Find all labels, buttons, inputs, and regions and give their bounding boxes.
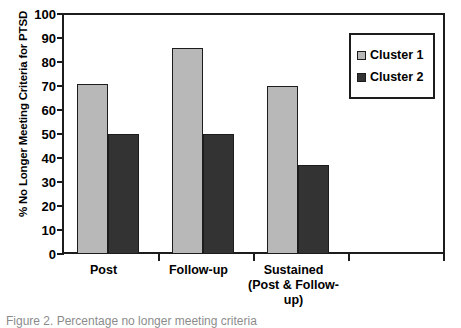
x-tick-mark (443, 254, 445, 261)
y-tick-label: 40 (18, 152, 56, 165)
x-axis-label-3: Sustained(Post & Follow-up) (246, 263, 341, 307)
y-tick-label: 10 (18, 224, 56, 237)
y-tick-label: 100 (18, 8, 56, 21)
legend-swatch-icon-cluster-2 (357, 73, 366, 82)
legend-label-cluster-1: Cluster 1 (370, 48, 424, 62)
y-tick-label: 0 (18, 248, 56, 261)
x-axis-label-line: Follow-up (151, 263, 246, 278)
bar-cluster-2 (108, 134, 139, 254)
y-tick-label: 60 (18, 104, 56, 117)
legend-label-cluster-2: Cluster 2 (370, 70, 424, 84)
x-axis-label-line: Sustained (246, 263, 341, 278)
x-axis-label-1: Post (56, 263, 151, 278)
bar-cluster-1 (77, 84, 108, 254)
x-tick-mark (253, 254, 255, 261)
x-axis-label-2: Follow-up (151, 263, 246, 278)
bar-cluster-1 (267, 86, 298, 254)
legend: Cluster 1 Cluster 2 (349, 33, 435, 99)
y-tick-label: 90 (18, 32, 56, 45)
y-tick-label: 30 (18, 176, 56, 189)
legend-swatch-icon-cluster-1 (357, 51, 366, 60)
bar-cluster-2 (203, 134, 234, 254)
x-axis-label-line: (Post & Follow- (246, 278, 341, 293)
bar-cluster-2 (298, 165, 329, 254)
y-tick-label: 50 (18, 128, 56, 141)
x-tick-mark (348, 254, 350, 261)
y-tick-label: 80 (18, 56, 56, 69)
x-tick-mark (158, 254, 160, 261)
legend-item-cluster-2: Cluster 2 (357, 67, 433, 87)
legend-item-cluster-1: Cluster 1 (357, 45, 433, 65)
x-axis-label-line: up) (246, 293, 341, 308)
figure-caption: Figure 2. Percentage no longer meeting c… (6, 314, 257, 328)
y-tick-label: 20 (18, 200, 56, 213)
bar-cluster-1 (172, 48, 203, 254)
x-axis-label-line: Post (56, 263, 151, 278)
y-tick-label: 70 (18, 80, 56, 93)
